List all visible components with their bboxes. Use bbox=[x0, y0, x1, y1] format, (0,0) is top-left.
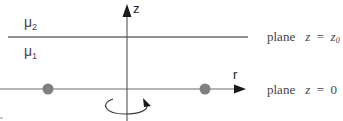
eq-lhs: z bbox=[305, 29, 310, 44]
left-charge-dot bbox=[43, 84, 54, 95]
z-axis-arrow-icon bbox=[123, 4, 132, 17]
plane-word: plane bbox=[267, 82, 295, 97]
eq-rhs: 0 bbox=[331, 82, 338, 97]
eq-lhs: z bbox=[305, 82, 310, 97]
mu2-symbol: μ bbox=[24, 14, 32, 30]
diagram-canvas bbox=[0, 0, 343, 121]
region-upper-mu2: μ2 bbox=[24, 15, 37, 32]
r-axis-arrow-icon bbox=[234, 85, 246, 94]
mu1-subscript: 1 bbox=[32, 51, 37, 61]
eq-sign: = bbox=[317, 29, 324, 44]
rotation-arc bbox=[106, 99, 148, 114]
plane-0-equation: z = 0 bbox=[305, 82, 337, 97]
mu2-subscript: 2 bbox=[32, 22, 37, 32]
eq-rhs-subscript: 0 bbox=[336, 36, 340, 45]
plane-0-label: planez = 0 bbox=[267, 83, 337, 96]
r-axis-label: r bbox=[233, 68, 237, 81]
plane-word: plane bbox=[267, 29, 295, 44]
region-lower-mu1: μ1 bbox=[24, 44, 37, 61]
plane-z0-equation: z = z0 bbox=[305, 29, 339, 44]
mu1-symbol: μ bbox=[24, 43, 32, 59]
z-axis-label: z bbox=[133, 2, 140, 15]
rotation-arrow-icon bbox=[143, 98, 151, 107]
right-charge-dot bbox=[200, 84, 211, 95]
eq-sign: = bbox=[317, 82, 324, 97]
plane-z0-label: planez = z0 bbox=[267, 30, 340, 45]
